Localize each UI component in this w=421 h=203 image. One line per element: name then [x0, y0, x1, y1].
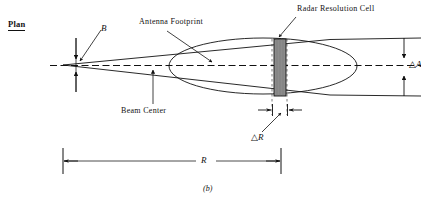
cross-range-resolution-var: A	[416, 59, 421, 69]
delta-symbol-r: △	[251, 132, 258, 142]
cross-range-resolution-label: △A	[409, 60, 421, 69]
range-label: R	[201, 156, 207, 165]
range-resolution-var: R	[258, 132, 264, 142]
radar-geometry-drawing	[0, 0, 421, 203]
range-dimension	[63, 148, 281, 174]
view-label-plan: Plan	[8, 20, 25, 31]
figure-container: Plan B Antenna Footprint Beam Center Rad…	[0, 0, 421, 203]
beam-center-label: Beam Center	[121, 107, 166, 115]
figure-caption: (b)	[203, 185, 212, 193]
beam-envelope	[63, 38, 421, 96]
beam-lower-edge	[63, 65, 421, 96]
antenna-footprint-label: Antenna Footprint	[139, 18, 203, 26]
beamwidth-leader-line	[80, 30, 101, 61]
beam-upper-edge	[63, 38, 421, 65]
range-resolution-label: △R	[251, 133, 264, 142]
delta-symbol-a: △	[409, 59, 416, 69]
radar-resolution-cell-leader-line	[279, 17, 296, 37]
range-resolution-leader-line	[262, 113, 281, 132]
radar-resolution-cell-label: Radar Resolution Cell	[297, 5, 374, 13]
radar-resolution-cell	[274, 39, 286, 96]
beamwidth-label: B	[101, 24, 107, 33]
